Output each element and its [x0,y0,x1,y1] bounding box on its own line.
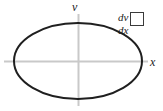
answer-input-box[interactable] [130,12,144,26]
x-axis-label: x [150,56,155,68]
v-axis-label: v [72,1,77,13]
derivative-annotation: dv dx [117,12,144,36]
derivative-fraction: dv dx [117,12,129,36]
derivative-denominator: dx [117,25,129,37]
derivative-numerator: dv [117,12,129,24]
phase-plane-figure: v x dv dx [0,0,163,111]
